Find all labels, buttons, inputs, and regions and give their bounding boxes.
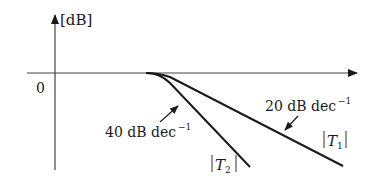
curve-label-t2: T 2 bbox=[212, 155, 236, 175]
pointer-arrow-20db bbox=[285, 116, 298, 130]
pointer-arrow-40db bbox=[160, 106, 178, 122]
slope-label-40db: 40 dB dec−1 bbox=[105, 122, 191, 140]
bode-diagram: [dB] 0 40 dB dec−1 20 dB dec−1 T 1 T 2 bbox=[0, 0, 374, 181]
origin-zero-label: 0 bbox=[36, 80, 45, 96]
curve-t1 bbox=[146, 73, 343, 166]
curve-label-t1: T 1 bbox=[324, 131, 346, 151]
svg-text:1: 1 bbox=[337, 141, 343, 151]
svg-text:2: 2 bbox=[225, 165, 231, 175]
y-axis-label: [dB] bbox=[60, 11, 92, 29]
slope-label-20db: 20 dB dec−1 bbox=[265, 96, 351, 114]
bode-plot-svg: [dB] 0 40 dB dec−1 20 dB dec−1 T 1 T 2 bbox=[0, 0, 374, 181]
